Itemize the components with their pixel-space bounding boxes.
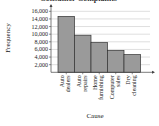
bar xyxy=(75,35,92,72)
x-tick-label: dealers xyxy=(65,75,71,93)
bars xyxy=(58,16,141,72)
y-tick-label: 8,000 xyxy=(35,39,49,45)
bar xyxy=(108,50,125,72)
y-tick-label: 4,000 xyxy=(35,54,49,60)
y-tick-labels: 2,0004,0006,0008,00010,00012,00014,00016… xyxy=(32,8,49,67)
bar xyxy=(91,43,108,73)
y-tick-label: 14,000 xyxy=(32,16,49,22)
x-tick-label: furnishing xyxy=(98,75,104,100)
x-tick-labels: AutodealersAutorepairsHomefurnishingComp… xyxy=(59,72,137,100)
bar xyxy=(124,55,141,73)
bar-chart: 2,0004,0006,0008,00010,00012,00014,00016… xyxy=(0,0,159,126)
y-tick-label: 12,000 xyxy=(32,24,49,30)
y-tick-label: 2,000 xyxy=(35,62,49,68)
y-tick-label: 10,000 xyxy=(32,31,49,37)
x-tick-label: sales xyxy=(115,75,121,87)
y-tick-label: 16,000 xyxy=(32,8,49,14)
x-tick-label: cleaning xyxy=(131,75,137,95)
x-axis-arrow-icon xyxy=(152,71,155,74)
bar xyxy=(58,16,75,72)
y-axis-label: Frequency xyxy=(2,20,12,60)
y-axis-arrow-icon xyxy=(50,4,53,7)
y-tick-label: 6,000 xyxy=(35,46,49,52)
x-tick-label: repairs xyxy=(82,75,88,92)
x-axis-label: Cause xyxy=(70,112,120,120)
